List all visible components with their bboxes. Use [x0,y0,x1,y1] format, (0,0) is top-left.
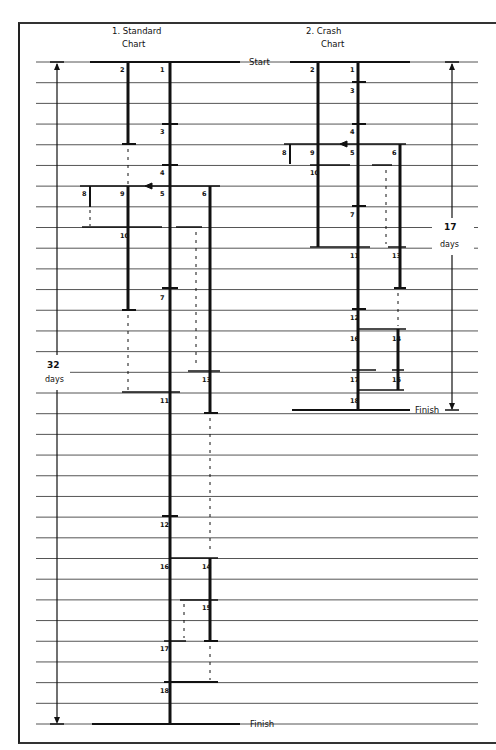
standard-node-16: 16 [160,563,170,571]
standard-node-6: 6 [202,190,207,198]
standard-node-17: 17 [160,645,169,653]
standard-node-12: 12 [160,521,169,529]
crash-node-6: 6 [392,149,397,157]
crash-node-1: 1 [350,66,355,74]
crash-node-8: 8 [282,149,287,157]
crash-node-18: 18 [350,397,360,405]
arrow-left-icon [145,183,152,189]
arrow-left-icon [340,141,347,147]
crash-node-2: 2 [310,66,315,74]
standard-node-18: 18 [160,687,170,695]
crash-node-15: 15 [392,376,402,384]
crash-node-12: 12 [350,314,359,322]
crash-node-7: 7 [350,211,355,219]
crash-node-16: 16 [350,335,360,343]
crash-chart-subtitle: Chart [321,39,345,49]
standard-duration-unit: days [45,375,64,384]
standard-finish-label: Finish [250,719,274,729]
standard-node-4: 4 [160,169,165,177]
crash-node-labels: 123456891071113121614171518 [282,66,402,405]
pert-diagram: 1. Standard Chart 2. Crash Chart Start F… [0,0,496,750]
crash-node-13: 13 [392,252,401,260]
standard-node-3: 3 [160,128,165,136]
grid-lines [36,62,478,724]
standard-duration-number: 32 [47,360,60,370]
crash-node-14: 14 [392,335,402,343]
crash-node-10: 10 [310,169,320,177]
standard-node-1: 1 [160,66,165,74]
crash-chart [284,62,410,410]
arrow-down-icon [449,403,455,410]
arrow-up-icon [449,63,455,70]
crash-duration-unit: days [440,240,459,249]
start-label: Start [249,57,270,67]
standard-node-9: 9 [120,190,125,198]
standard-node-5: 5 [160,190,165,198]
standard-chart-subtitle: Chart [122,39,146,49]
standard-node-15: 15 [202,604,212,612]
crash-node-4: 4 [350,128,355,136]
standard-node-7: 7 [160,294,165,302]
arrow-up-icon [54,63,60,70]
standard-node-10: 10 [120,232,130,240]
crash-node-3: 3 [350,87,355,95]
crash-chart-title: 2. Crash [306,26,341,36]
standard-node-2: 2 [120,66,125,74]
standard-node-13: 13 [202,376,211,384]
arrow-down-icon [54,717,60,724]
crash-node-5: 5 [350,149,355,157]
standard-node-14: 14 [202,563,212,571]
crash-finish-label: Finish [415,405,439,415]
crash-node-17: 17 [350,376,359,384]
crash-duration-number: 17 [444,222,457,232]
standard-chart-title: 1. Standard [112,26,161,36]
crash-node-11: 11 [350,252,360,260]
crash-node-9: 9 [310,149,315,157]
standard-node-11: 11 [160,397,170,405]
standard-node-8: 8 [82,190,87,198]
